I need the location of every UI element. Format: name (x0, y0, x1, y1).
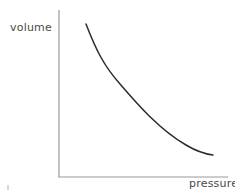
x-axis-label: pressure (189, 178, 235, 190)
chart-figure: volume pressure (0, 0, 235, 194)
data-curve (86, 24, 213, 155)
stray-mark (7, 185, 9, 190)
y-axis-label: volume (10, 22, 52, 34)
